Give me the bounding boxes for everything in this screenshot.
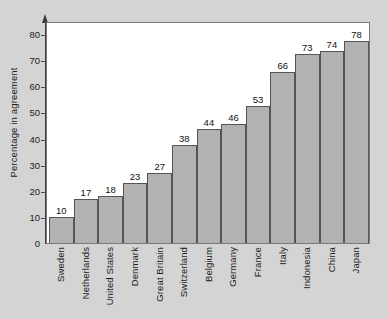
category-label: Germany bbox=[220, 245, 245, 319]
x-axis-category-labels: SwedenNetherlandsUnited StatesDenmarkGre… bbox=[46, 245, 370, 319]
bar-group: 18 bbox=[98, 23, 123, 243]
bar bbox=[246, 106, 271, 243]
y-tick-label: 10 bbox=[22, 213, 40, 223]
y-tick-label: 20 bbox=[22, 187, 40, 197]
bar bbox=[295, 54, 320, 243]
y-axis-ticks: 01020304050607080 bbox=[20, 0, 40, 319]
y-tick-label: 40 bbox=[22, 135, 40, 145]
y-tick-mark bbox=[41, 35, 46, 36]
category-label: Great Britain bbox=[146, 245, 171, 319]
bar-group: 53 bbox=[246, 23, 271, 243]
category-label-text: Netherlands bbox=[79, 247, 90, 299]
category-label-text: United States bbox=[104, 247, 115, 305]
category-label-text: Italy bbox=[276, 247, 287, 265]
category-label: Indonesia bbox=[294, 245, 319, 319]
bar-group: 10 bbox=[49, 23, 74, 243]
bar bbox=[320, 51, 345, 243]
category-label-text: China bbox=[325, 247, 336, 272]
bar-group: 73 bbox=[295, 23, 320, 243]
y-tick-label: 60 bbox=[22, 82, 40, 92]
y-tick-label: 80 bbox=[22, 30, 40, 40]
category-label: Switzerland bbox=[171, 245, 196, 319]
y-tick-mark bbox=[41, 192, 46, 193]
category-label: Denmark bbox=[122, 245, 147, 319]
bar-group: 23 bbox=[123, 23, 148, 243]
y-tick-label: 30 bbox=[22, 161, 40, 171]
category-label-text: Switzerland bbox=[178, 247, 189, 297]
bar-chart-figure: Percentage in agreement 0102030405060708… bbox=[0, 0, 388, 319]
bar-group: 44 bbox=[197, 23, 222, 243]
bar-group: 46 bbox=[221, 23, 246, 243]
bar bbox=[221, 124, 246, 243]
category-label: United States bbox=[97, 245, 122, 319]
plot-area: 10171823273844465366737478 bbox=[46, 22, 370, 244]
category-label-text: Belgium bbox=[202, 247, 213, 282]
bar-group: 78 bbox=[344, 23, 369, 243]
category-label: Japan bbox=[343, 245, 368, 319]
category-label-text: Denmark bbox=[129, 247, 140, 286]
bar bbox=[172, 145, 197, 243]
y-tick-label: 0 bbox=[22, 239, 40, 249]
y-tick-mark bbox=[41, 113, 46, 114]
bar bbox=[98, 196, 123, 243]
bar-group: 74 bbox=[320, 23, 345, 243]
y-tick-mark bbox=[41, 140, 46, 141]
y-tick-mark bbox=[41, 61, 46, 62]
category-label: Belgium bbox=[196, 245, 221, 319]
y-tick-label: 50 bbox=[22, 108, 40, 118]
bar bbox=[197, 129, 222, 243]
category-label-text: Germany bbox=[227, 247, 238, 287]
category-label: Sweden bbox=[48, 245, 73, 319]
y-tick-mark bbox=[41, 218, 46, 219]
y-axis-title-text: Percentage in agreement bbox=[8, 67, 19, 177]
category-label: Netherlands bbox=[73, 245, 98, 319]
bar-group: 66 bbox=[270, 23, 295, 243]
category-label-text: Sweden bbox=[55, 247, 66, 282]
bar-group: 17 bbox=[74, 23, 99, 243]
category-label-text: Japan bbox=[350, 247, 361, 273]
y-tick-label: 70 bbox=[22, 56, 40, 66]
bar bbox=[74, 199, 99, 243]
bar bbox=[123, 183, 148, 243]
bar-value-label: 78 bbox=[338, 29, 375, 40]
bar bbox=[270, 72, 295, 243]
y-tick-mark bbox=[41, 166, 46, 167]
y-tick-mark bbox=[41, 87, 46, 88]
bar bbox=[344, 41, 369, 243]
bar bbox=[147, 173, 172, 243]
bar-group: 38 bbox=[172, 23, 197, 243]
category-label-text: Indonesia bbox=[301, 247, 312, 289]
category-label-text: Great Britain bbox=[153, 247, 164, 302]
category-label: China bbox=[319, 245, 344, 319]
category-label: Italy bbox=[269, 245, 294, 319]
bars-layer: 10171823273844465366737478 bbox=[47, 23, 369, 243]
category-label-text: France bbox=[252, 247, 263, 277]
bar bbox=[49, 217, 74, 243]
category-label: France bbox=[245, 245, 270, 319]
